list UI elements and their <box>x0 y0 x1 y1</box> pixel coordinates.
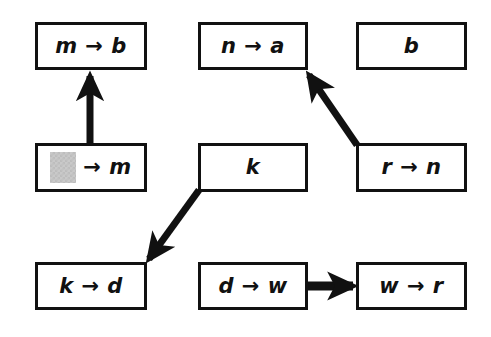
node-m-to-b[interactable]: m → b <box>35 22 147 70</box>
node-label: k <box>246 157 260 178</box>
node-blank-to-m[interactable]: → m <box>35 143 147 192</box>
node-label: m → b <box>55 36 127 57</box>
node-d-to-w[interactable]: d → w <box>198 262 308 310</box>
node-label: d → w <box>218 276 287 297</box>
diagram-canvas: m → b n → a b → m k r → n k → d d → w w … <box>0 0 491 337</box>
node-label: k → d <box>59 276 123 297</box>
node-b[interactable]: b <box>356 22 467 70</box>
node-label: n → a <box>221 36 285 57</box>
blank-placeholder-icon <box>50 152 76 183</box>
node-n-to-a[interactable]: n → a <box>198 22 308 70</box>
node-label: r → n <box>381 157 441 178</box>
node-k-to-d[interactable]: k → d <box>35 262 147 310</box>
node-w-to-r[interactable]: w → r <box>356 262 467 310</box>
node-label: b <box>404 36 420 57</box>
node-label: → m <box>83 157 131 178</box>
node-label: w → r <box>379 276 443 297</box>
node-r-to-n[interactable]: r → n <box>356 143 467 192</box>
node-label-with-blank: → m <box>50 152 131 183</box>
node-k[interactable]: k <box>198 143 308 192</box>
edge-r-to-n-up-left <box>309 75 357 145</box>
edge-k-down-left <box>149 190 199 259</box>
